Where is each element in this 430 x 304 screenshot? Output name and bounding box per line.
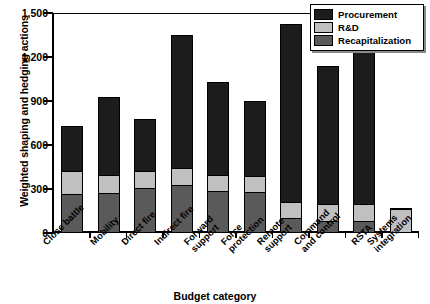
bar-segment-rd[interactable] [354,204,374,221]
bar-slot [54,13,91,233]
bar-segment-procurement[interactable] [99,98,119,175]
y-tick-label: 600 [4,139,48,151]
y-tick-mark [44,100,53,102]
bar-segment-procurement[interactable] [208,83,228,175]
bar-segment-procurement[interactable] [245,102,265,175]
y-tick-mark [44,232,53,234]
y-tick-label: 1,200 [4,51,48,63]
chart-legend: ProcurementR&DRecapitalization [310,4,424,51]
y-tick-mark [44,56,53,58]
x-label-slot: Close battle [54,238,91,290]
bar-segment-procurement[interactable] [62,127,82,171]
legend-item[interactable]: Procurement [314,8,419,21]
bar-stack[interactable] [353,52,375,233]
bar-segment-procurement[interactable] [354,53,374,204]
bar-slot [164,13,201,233]
bar-slot [91,13,128,233]
x-axis-category-labels: Close battleMobilityDirect fireIndirect … [54,238,419,290]
bar-segment-rd[interactable] [62,171,82,194]
bar-slot [127,13,164,233]
legend-swatch [314,22,333,33]
bar-segment-rd[interactable] [172,168,192,184]
legend-label: R&D [338,23,359,33]
y-tick-label: 900 [4,95,48,107]
y-tick-mark [44,188,53,190]
legend-swatch [314,9,333,20]
legend-item[interactable]: Recapitalization [314,34,419,47]
bar-segment-procurement[interactable] [135,120,155,171]
legend-item[interactable]: R&D [314,21,419,34]
legend-swatch [314,35,333,46]
bar-segment-procurement[interactable] [172,36,192,168]
bar-segment-procurement[interactable] [318,67,338,203]
y-tick-label: 300 [4,183,48,195]
x-label-slot: Commandand control [310,238,347,290]
bar-slot [273,13,310,233]
bar-segment-rd[interactable] [99,175,119,193]
bar-stack[interactable] [171,35,193,233]
y-tick-label: 1,500 [4,7,48,19]
y-tick-mark [44,144,53,146]
legend-label: Procurement [338,10,397,20]
legend-label: Recapitalization [338,36,411,46]
y-axis-title: Weighted shaping and hedging actions [18,0,30,231]
bar-segment-procurement[interactable] [281,25,301,202]
x-label-slot: Systemsintegration [383,238,420,290]
bar-segment-rd[interactable] [245,176,265,192]
bar-slot [200,13,237,233]
y-tick-mark [44,12,53,14]
bar-segment-rd[interactable] [208,175,228,191]
bar-segment-rd[interactable] [135,171,155,187]
stacked-bar-chart: Weighted shaping and hedging actions 030… [0,0,430,304]
bar-stack[interactable] [98,97,120,233]
x-axis-title: Budget category [0,290,430,302]
x-label-slot: Mobility [91,238,128,290]
